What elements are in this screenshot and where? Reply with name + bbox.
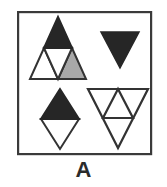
figure-caption-label: A	[0, 157, 167, 183]
